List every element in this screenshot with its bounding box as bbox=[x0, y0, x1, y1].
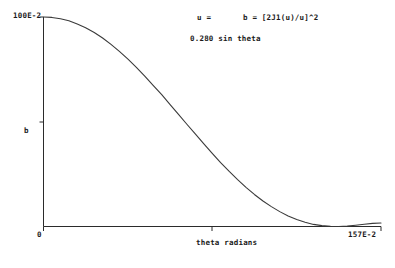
airy-intensity-curve bbox=[44, 17, 382, 227]
annotation-u-definition: u = bbox=[197, 13, 211, 22]
x-axis-max-label: 157E-2 bbox=[348, 230, 376, 239]
diffraction-chart: 100E-2 b 0 157E-2 theta radians u = b = … bbox=[0, 0, 395, 268]
x-axis-title: theta radians bbox=[196, 238, 257, 247]
x-axis-min-label: 0 bbox=[37, 230, 42, 239]
annotation-intensity-formula: b = [2J1(u)/u]^2 bbox=[243, 13, 318, 22]
y-axis-title: b bbox=[24, 126, 29, 135]
y-axis-max-label: 100E-2 bbox=[13, 11, 41, 20]
annotation-u-expression: 0.280 sin theta bbox=[190, 34, 261, 43]
